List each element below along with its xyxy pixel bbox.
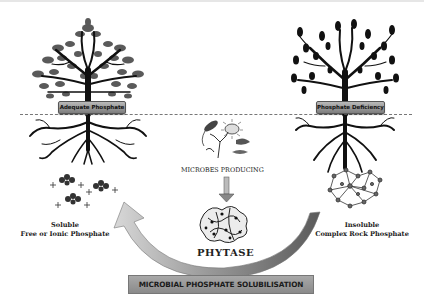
soluble-caption-line1: Soluble (15, 221, 115, 230)
title-banner: MICROBIAL PHOSPHATE SOLUBILISATION (128, 275, 314, 294)
right-tree-icon (291, 19, 399, 172)
down-arrow-icon (219, 177, 234, 202)
soluble-caption: Soluble Free or Ionic Phosphate (15, 221, 115, 239)
microbes-producing-label: MICROBES PRODUCING (181, 166, 264, 174)
soluble-caption-line2: Free or Ionic Phosphate (15, 230, 115, 239)
diagram-graphics (0, 0, 424, 307)
adequate-phosphate-label: Adequate Phosphate (58, 101, 126, 114)
phosphate-deficiency-label: Phosphate Deficiency (316, 101, 385, 114)
rock-phosphate-lattice-icon (328, 168, 382, 208)
soil-line (20, 114, 412, 115)
phytase-protein-icon (200, 206, 247, 242)
insoluble-caption-line1: Insoluble (312, 221, 412, 230)
soluble-phosphate-ions-icon (50, 174, 118, 208)
microbes-icon (202, 119, 250, 158)
left-tree-icon (30, 18, 146, 164)
insoluble-caption: Insoluble Complex Rock Phosphate (312, 221, 412, 239)
insoluble-caption-line2: Complex Rock Phosphate (312, 230, 412, 239)
phytase-label: PHYTASE (197, 247, 254, 258)
